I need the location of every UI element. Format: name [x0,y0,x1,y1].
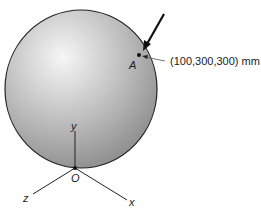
point-a-label: A [129,60,136,71]
force-arrow [143,14,164,51]
z-axis-label: z [23,193,29,204]
point-a-dot [137,53,141,57]
y-axis-label: y [71,121,77,132]
x-axis-label: x [129,197,135,208]
x-axis [75,168,127,200]
coordinates-label: (100,300,300) mm [170,56,260,67]
sphere [5,10,157,168]
origin-dot [73,166,77,170]
origin-label: O [71,173,80,184]
sphere-diagram [0,0,261,214]
z-axis [33,168,75,194]
